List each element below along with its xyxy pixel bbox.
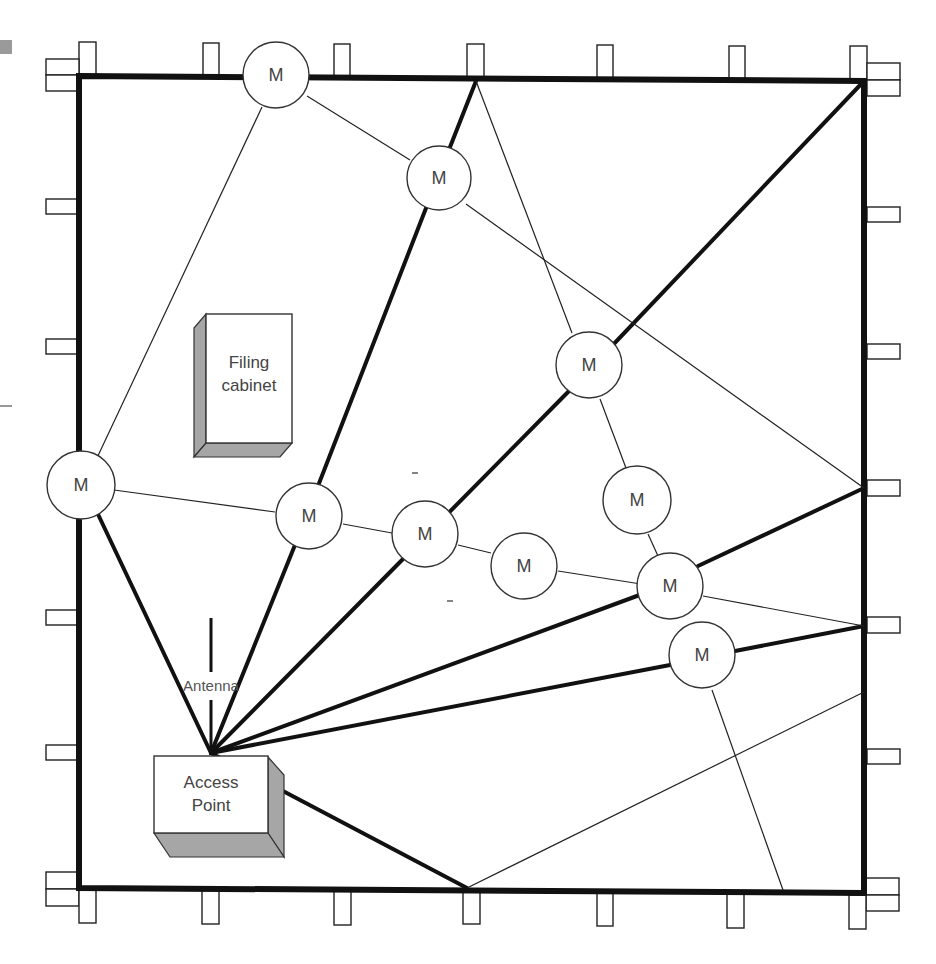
mesh-node-label: M [582,355,597,375]
access-point-label-line1: Access [184,773,239,792]
mesh-node-label: M [74,475,89,495]
access-point-label-line2: Point [192,796,231,815]
mesh-node: M [669,622,735,688]
mesh-node: M [637,553,703,619]
filing-cabinet-label-line1: Filing [229,353,270,372]
mesh-node: M [491,533,557,599]
mesh-node: M [392,501,458,567]
antenna-label: Antenna [183,677,240,694]
corner-tabs-top-left [46,59,79,91]
mesh-node: M [603,466,671,534]
corner-tabs-top-right [867,63,900,96]
corner-tabs-bottom-left [46,872,79,906]
mesh-node: M [556,332,622,398]
access-point: Access Point [154,756,284,857]
filing-cabinet-label-line2: cabinet [222,376,277,395]
mesh-node: M [47,451,115,519]
edge-artifact [0,40,12,54]
mesh-node-label: M [630,490,645,510]
mesh-node-label: M [302,506,317,526]
bottom-wall-tabs [79,890,866,929]
mesh-node-label: M [663,576,678,596]
mesh-node: M [407,146,471,210]
mesh-node-label: M [517,556,532,576]
mesh-node: M [276,483,342,549]
mesh-node-label: M [269,65,284,85]
mesh-network-diagram: Filing cabinet Access Point Antenna M M … [0,0,936,964]
right-wall-tabs [867,207,900,764]
mesh-node: M [243,42,309,108]
mesh-node-label: M [418,524,433,544]
mesh-node-label: M [432,168,447,188]
corner-tabs-bottom-right [866,878,899,911]
filing-cabinet: Filing cabinet [194,314,292,457]
mesh-node-label: M [695,645,710,665]
